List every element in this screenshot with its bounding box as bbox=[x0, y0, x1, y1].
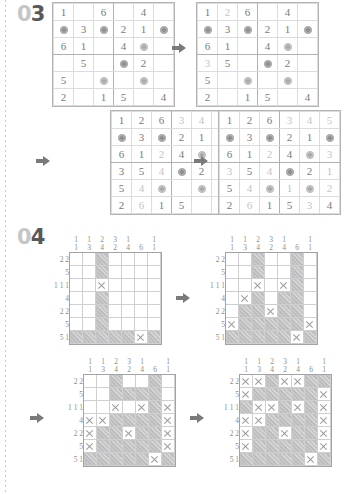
filled-cell[interactable] bbox=[265, 318, 278, 331]
sudoku-cell[interactable]: 4 bbox=[132, 180, 152, 197]
sudoku-cell[interactable] bbox=[298, 55, 318, 72]
nonogram-grid-step-2[interactable]: 11132432146112 251 1 142 255 1 bbox=[198, 234, 317, 344]
crossed-cell[interactable] bbox=[135, 331, 148, 344]
sudoku-cell[interactable] bbox=[278, 89, 298, 106]
sudoku-cell[interactable]: 2 bbox=[280, 129, 300, 146]
sudoku-cell[interactable] bbox=[238, 72, 258, 89]
filled-cell[interactable] bbox=[279, 401, 292, 414]
filled-cell[interactable] bbox=[110, 440, 123, 453]
crossed-cell[interactable] bbox=[240, 388, 253, 401]
sudoku-cell[interactable]: 2 bbox=[300, 163, 320, 180]
filled-cell[interactable] bbox=[96, 331, 109, 344]
filled-cell[interactable] bbox=[252, 266, 265, 279]
sudoku-cell[interactable] bbox=[74, 89, 94, 106]
crossed-cell[interactable] bbox=[265, 305, 278, 318]
empty-cell[interactable] bbox=[265, 253, 278, 266]
sudoku-cell[interactable] bbox=[94, 72, 114, 89]
crossed-cell[interactable] bbox=[239, 292, 252, 305]
sudoku-cell[interactable]: 1 bbox=[54, 4, 74, 21]
crossed-cell[interactable] bbox=[304, 318, 317, 331]
crossed-cell[interactable] bbox=[136, 401, 149, 414]
crossed-cell[interactable] bbox=[110, 401, 123, 414]
filled-cell[interactable] bbox=[149, 427, 162, 440]
empty-cell[interactable] bbox=[97, 388, 110, 401]
filled-cell[interactable] bbox=[162, 453, 175, 466]
empty-cell[interactable] bbox=[84, 388, 97, 401]
crossed-cell[interactable] bbox=[226, 318, 239, 331]
empty-cell[interactable] bbox=[265, 266, 278, 279]
empty-cell[interactable] bbox=[84, 401, 97, 414]
sudoku-cell[interactable] bbox=[154, 38, 174, 55]
empty-cell[interactable] bbox=[265, 292, 278, 305]
filled-cell[interactable] bbox=[252, 318, 265, 331]
sudoku-cell[interactable]: 1 bbox=[280, 180, 300, 197]
sudoku-cell[interactable] bbox=[74, 72, 94, 89]
crossed-cell[interactable] bbox=[279, 375, 292, 388]
filled-cell[interactable] bbox=[136, 453, 149, 466]
filled-cell[interactable] bbox=[240, 401, 253, 414]
filled-cell[interactable] bbox=[266, 453, 279, 466]
sudoku-cell[interactable] bbox=[114, 55, 134, 72]
sudoku-cell[interactable] bbox=[298, 38, 318, 55]
sudoku-cell[interactable]: 2 bbox=[260, 146, 280, 163]
empty-cell[interactable] bbox=[278, 266, 291, 279]
sudoku-cell[interactable] bbox=[154, 72, 174, 89]
filled-cell[interactable] bbox=[96, 318, 109, 331]
sudoku-cell[interactable]: 3 bbox=[240, 129, 260, 146]
sudoku-cell[interactable]: 5 bbox=[132, 163, 152, 180]
empty-cell[interactable] bbox=[109, 305, 122, 318]
empty-cell[interactable] bbox=[239, 279, 252, 292]
empty-cell[interactable] bbox=[148, 318, 161, 331]
crossed-cell[interactable] bbox=[240, 427, 253, 440]
sudoku-cell[interactable]: 3 bbox=[74, 21, 94, 38]
filled-cell[interactable] bbox=[123, 440, 136, 453]
crossed-cell[interactable] bbox=[318, 440, 331, 453]
sudoku-cell[interactable]: 6 bbox=[238, 4, 258, 21]
sudoku-cell[interactable] bbox=[198, 21, 218, 38]
empty-cell[interactable] bbox=[109, 253, 122, 266]
sudoku-cell[interactable]: 5 bbox=[218, 55, 238, 72]
empty-cell[interactable] bbox=[304, 266, 317, 279]
empty-cell[interactable] bbox=[226, 305, 239, 318]
empty-cell[interactable] bbox=[123, 375, 136, 388]
sudoku-cell[interactable]: 3 bbox=[132, 129, 152, 146]
sudoku-cell[interactable]: 6 bbox=[240, 197, 260, 214]
sudoku-cell[interactable] bbox=[94, 38, 114, 55]
empty-cell[interactable] bbox=[162, 375, 175, 388]
sudoku-cell[interactable]: 3 bbox=[198, 55, 218, 72]
filled-cell[interactable] bbox=[84, 453, 97, 466]
sudoku-cell[interactable] bbox=[260, 129, 280, 146]
empty-cell[interactable] bbox=[70, 279, 83, 292]
sudoku-cell[interactable]: 1 bbox=[94, 89, 114, 106]
filled-cell[interactable] bbox=[305, 440, 318, 453]
crossed-cell[interactable] bbox=[318, 401, 331, 414]
crossed-cell[interactable] bbox=[123, 427, 136, 440]
empty-cell[interactable] bbox=[148, 279, 161, 292]
sudoku-cell[interactable]: 4 bbox=[320, 197, 340, 214]
sudoku-cell[interactable]: 4 bbox=[280, 146, 300, 163]
sudoku-cell[interactable] bbox=[320, 129, 340, 146]
empty-cell[interactable] bbox=[70, 318, 83, 331]
sudoku-cell[interactable] bbox=[280, 163, 300, 180]
empty-cell[interactable] bbox=[83, 279, 96, 292]
sudoku-cell[interactable]: 5 bbox=[220, 180, 240, 197]
sudoku-cell[interactable]: 5 bbox=[74, 55, 94, 72]
empty-cell[interactable] bbox=[70, 292, 83, 305]
sudoku-cell[interactable]: 2 bbox=[198, 89, 218, 106]
filled-cell[interactable] bbox=[110, 388, 123, 401]
sudoku-cell[interactable] bbox=[298, 4, 318, 21]
sudoku-cell[interactable] bbox=[278, 38, 298, 55]
sudoku-cell[interactable]: 4 bbox=[260, 163, 280, 180]
sudoku-cell[interactable]: 3 bbox=[300, 197, 320, 214]
filled-cell[interactable] bbox=[110, 414, 123, 427]
sudoku-cell[interactable]: 5 bbox=[112, 180, 132, 197]
sudoku-cell[interactable] bbox=[134, 38, 154, 55]
sudoku-cell[interactable]: 2 bbox=[320, 180, 340, 197]
empty-cell[interactable] bbox=[162, 388, 175, 401]
empty-cell[interactable] bbox=[226, 292, 239, 305]
crossed-cell[interactable] bbox=[84, 427, 97, 440]
sudoku-cell[interactable] bbox=[238, 38, 258, 55]
crossed-cell[interactable] bbox=[318, 427, 331, 440]
sudoku-cell[interactable]: 2 bbox=[152, 146, 172, 163]
sudoku-cell[interactable]: 2 bbox=[218, 4, 238, 21]
